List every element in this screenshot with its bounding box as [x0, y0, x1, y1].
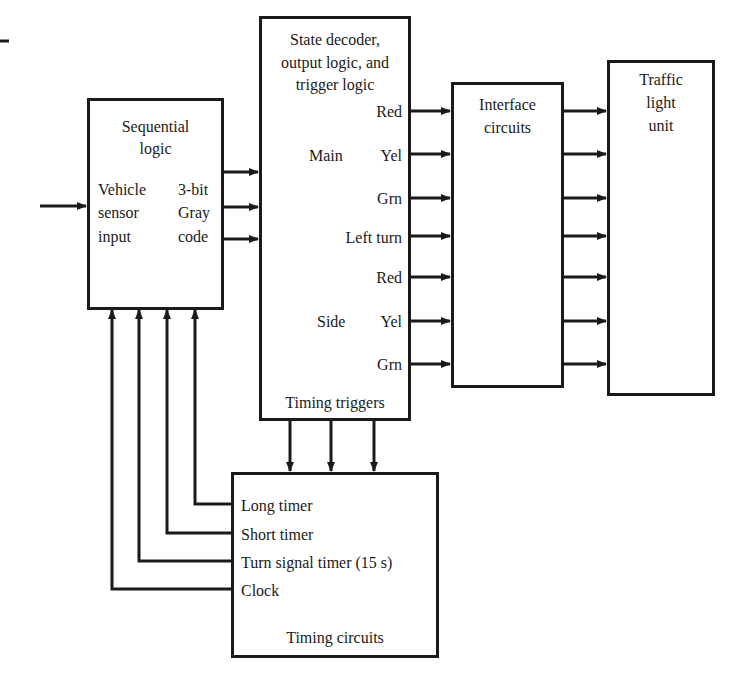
signal-label: Yel — [381, 147, 403, 165]
block-title: logic — [90, 140, 221, 158]
timer-label: Turn signal timer (15 s) — [241, 554, 392, 572]
state-decoder-block: State decoder, output logic, and trigger… — [259, 16, 411, 421]
sequential-logic-block: Sequential logic Vehicle sensor input 3-… — [87, 98, 224, 310]
block-title: Interface — [454, 96, 561, 114]
signal-label-left-turn: Left turn — [346, 229, 402, 247]
block-footer: Timing circuits — [234, 629, 436, 647]
block-title: circuits — [454, 119, 561, 137]
block-title: light — [610, 94, 712, 112]
signal-label: Yel — [381, 313, 403, 331]
timer-label: Short timer — [241, 526, 313, 544]
timing-circuits-block: Long timer Short timer Turn signal timer… — [231, 472, 439, 658]
interface-circuits-block: Interface circuits — [451, 82, 564, 388]
signal-label: Grn — [377, 190, 402, 208]
timer-label: Long timer — [241, 497, 313, 515]
block-title: trigger logic — [262, 76, 408, 94]
block-title: Sequential — [90, 118, 221, 136]
block-title: State decoder, — [262, 31, 408, 49]
traffic-light-unit-block: Traffic light unit — [607, 60, 715, 396]
signal-label: Grn — [377, 356, 402, 374]
output-label: code — [178, 228, 208, 246]
block-footer: Timing triggers — [262, 394, 408, 412]
block-title: Traffic — [610, 71, 712, 89]
group-label-side: Side — [317, 313, 345, 331]
timer-label: Clock — [241, 582, 279, 600]
group-label-main: Main — [309, 147, 343, 165]
input-label: Vehicle — [98, 181, 146, 199]
block-title: output logic, and — [262, 54, 408, 72]
input-label: sensor — [98, 204, 139, 222]
input-label: input — [98, 228, 131, 246]
signal-label: Red — [376, 103, 402, 121]
output-label: Gray — [178, 204, 210, 222]
signal-label: Red — [376, 269, 402, 287]
block-title: unit — [610, 117, 712, 135]
output-label: 3-bit — [178, 181, 208, 199]
